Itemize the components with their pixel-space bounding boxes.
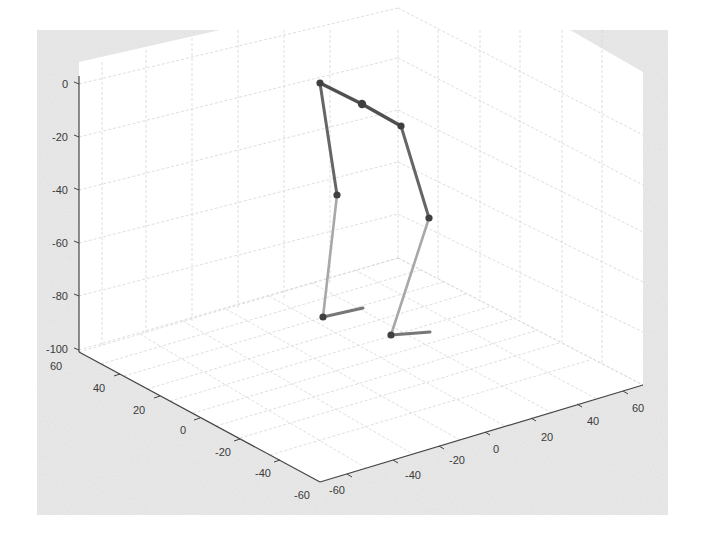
joint-hip-right [397, 122, 404, 129]
y-tick-label: 40 [587, 415, 599, 427]
x-tick-label: -20 [215, 446, 231, 458]
x-tick-label: 60 [50, 360, 62, 372]
joint-hip-left [316, 79, 323, 86]
joint-knee-right [425, 214, 432, 221]
z-tick-label: -100 [46, 343, 68, 355]
z-tick-label: 0 [62, 78, 68, 90]
joint-ankle-left [319, 313, 326, 320]
joint-knee-left [333, 191, 340, 198]
x-tick-label: 20 [133, 404, 145, 416]
y-tick-label: 60 [632, 402, 644, 414]
figure-canvas: 0 -20 -40 -60 -80 -100 60 40 20 0 -20 -4… [0, 0, 703, 544]
y-tick-label: 0 [493, 443, 499, 455]
joint-ankle-right [387, 331, 394, 338]
x-tick-label: 40 [93, 382, 105, 394]
x-tick-label: -60 [294, 489, 310, 501]
x-tick-label: 0 [180, 424, 186, 436]
joint-pelvis-center [358, 100, 366, 108]
x-tick-label: -40 [255, 467, 271, 479]
y-tick-label: 20 [541, 431, 553, 443]
z-tick-label: -60 [52, 237, 68, 249]
z-tick-label: -40 [52, 184, 68, 196]
y-tick-label: -60 [329, 484, 345, 496]
z-tick-label: -80 [52, 290, 68, 302]
y-tick-label: -40 [405, 469, 421, 481]
y-tick-label: -20 [449, 454, 465, 466]
z-tick-label: -20 [52, 131, 68, 143]
